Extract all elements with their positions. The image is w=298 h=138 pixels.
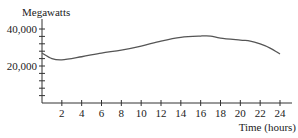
y-tick-label: 20,000 <box>7 60 38 72</box>
x-tick-label: 14 <box>175 107 187 119</box>
y-ticks: 20,00040,000 <box>7 23 45 96</box>
y-tick-label: 40,000 <box>7 23 38 35</box>
x-tick-label: 20 <box>235 107 247 119</box>
x-tick-label: 2 <box>59 107 65 119</box>
x-tick-label: 22 <box>255 107 266 119</box>
x-tick-label: 10 <box>136 107 148 119</box>
x-tick-label: 4 <box>79 107 85 119</box>
y-axis-label: Megawatts <box>22 6 70 18</box>
x-tick-label: 24 <box>275 107 287 119</box>
x-tick-label: 6 <box>99 107 105 119</box>
line-chart: Megawatts Time (hours) 20,00040,000 2468… <box>0 0 298 138</box>
chart-container: Megawatts Time (hours) 20,00040,000 2468… <box>0 0 298 138</box>
x-tick-label: 16 <box>195 107 207 119</box>
x-tick-label: 12 <box>156 107 167 119</box>
x-axis-label: Time (hours) <box>239 121 297 134</box>
x-tick-label: 18 <box>215 107 227 119</box>
axes <box>42 19 292 103</box>
x-tick-label: 8 <box>119 107 125 119</box>
data-line <box>42 36 280 60</box>
